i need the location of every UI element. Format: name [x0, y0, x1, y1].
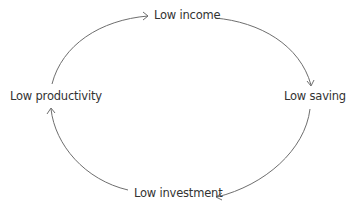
arrow-productivity-to-income [52, 16, 148, 84]
node-low-saving: Low saving [284, 91, 346, 103]
node-low-investment: Low investment [134, 188, 222, 200]
node-low-income: Low income [154, 10, 220, 22]
arrow-investment-to-productivity [51, 109, 128, 190]
arrow-saving-to-investment [217, 109, 310, 197]
arrow-income-to-saving [215, 18, 311, 85]
node-low-productivity: Low productivity [10, 91, 102, 103]
